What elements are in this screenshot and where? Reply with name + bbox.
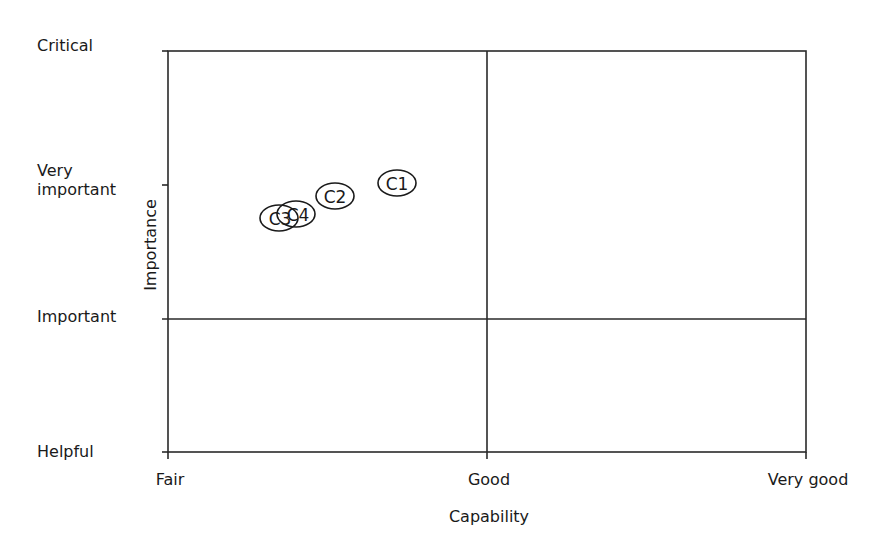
point-c2: C2 [316,183,354,209]
chart-plot: C1 C2 C4 C3 [0,0,893,551]
point-c3-label: C3 [269,209,292,229]
chart-frame [162,51,806,459]
point-c1: C1 [378,170,416,196]
point-c2-label: C2 [324,187,347,207]
point-c1-label: C1 [386,174,409,194]
